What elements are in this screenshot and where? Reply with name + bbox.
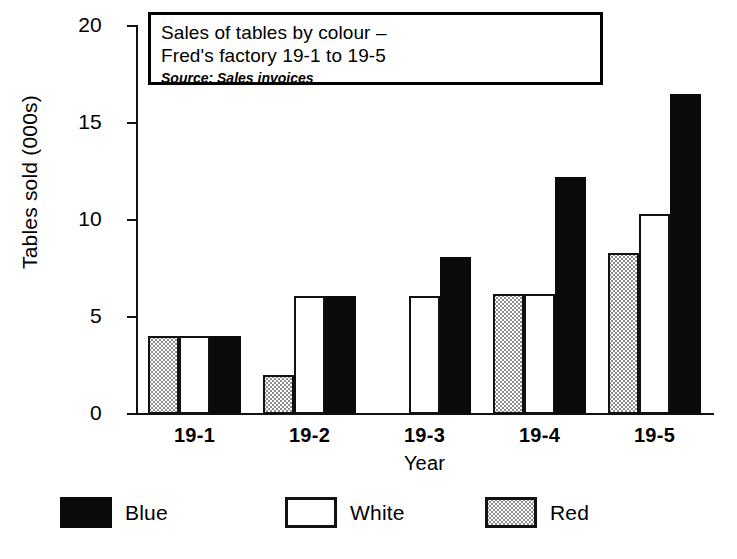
- bar-blue: [325, 296, 356, 414]
- x-tick-label: 19-1: [137, 424, 252, 446]
- bar-white: [639, 214, 670, 414]
- legend-swatch-blue-icon: [60, 497, 112, 528]
- x-tick-label: 19-5: [597, 424, 712, 446]
- bar-blue: [555, 177, 586, 414]
- bar-blue: [670, 94, 701, 414]
- x-tick-label: 19-3: [367, 424, 482, 446]
- bar-group: [252, 26, 367, 414]
- y-tick-label: 0: [58, 402, 102, 423]
- y-tick-label: 10: [58, 208, 102, 229]
- legend-item-blue[interactable]: Blue: [60, 497, 168, 528]
- bar-red: [263, 375, 294, 414]
- bar-white: [179, 336, 210, 414]
- x-tick-label: 19-2: [252, 424, 367, 446]
- bar-group: [137, 26, 252, 414]
- bar-white: [294, 296, 325, 414]
- plot-area: [137, 26, 712, 414]
- bar-white: [409, 296, 440, 414]
- legend-item-red[interactable]: Red: [485, 497, 589, 528]
- chart-legend: BlueWhiteRed: [60, 497, 680, 537]
- legend-label: White: [350, 502, 405, 523]
- legend-item-white[interactable]: White: [285, 497, 405, 528]
- bar-group: [597, 26, 712, 414]
- bar-blue: [210, 336, 241, 414]
- x-axis-title: Year: [137, 452, 712, 475]
- legend-swatch-red-icon: [485, 497, 537, 528]
- legend-label: Blue: [125, 502, 168, 523]
- legend-swatch-white-icon: [285, 497, 337, 528]
- bar-group: [482, 26, 597, 414]
- bar-red: [608, 253, 639, 414]
- y-tick-label: 5: [58, 305, 102, 326]
- y-tick-label: 20: [58, 14, 102, 35]
- y-tick-label: 15: [58, 111, 102, 132]
- bar-white: [524, 294, 555, 414]
- y-axis-title: Tables sold (000s): [18, 0, 42, 372]
- bar-blue: [440, 257, 471, 414]
- legend-label: Red: [550, 502, 589, 523]
- bar-red: [493, 294, 524, 414]
- bar-chart-figure: Tables sold (000s) 05101520 Sales of tab…: [0, 0, 737, 559]
- bar-group: [367, 26, 482, 414]
- bar-red: [148, 336, 179, 414]
- x-tick-label: 19-4: [482, 424, 597, 446]
